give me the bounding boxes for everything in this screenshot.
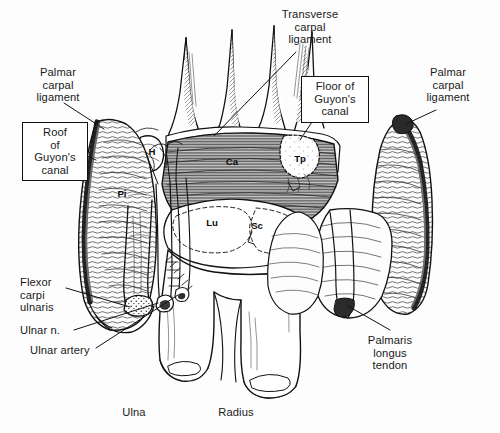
label-ulnar-nerve: Ulnar n. xyxy=(20,324,100,337)
bone-abbr-hamate: H xyxy=(140,146,164,157)
label-palmar-carpal-ligament-left: Palmar carpal ligament xyxy=(10,66,106,104)
label-floor-of-guyons-canal: Floor of Guyon's canal xyxy=(301,76,369,123)
label-ulna: Ulna xyxy=(108,406,160,419)
bone-abbr-lunate: Lu xyxy=(200,217,224,228)
bone-abbr-capitate: Ca xyxy=(220,156,244,167)
label-roof-of-guyons-canal: Roof of Guyon's canal xyxy=(22,122,88,181)
label-palmar-carpal-ligament-right: Palmar carpal ligament xyxy=(400,66,496,104)
bone-abbr-pisiform: Pi xyxy=(110,188,134,199)
bone-abbr-trapezium: Tp xyxy=(288,153,312,164)
bone-abbr-scaphoid: Sc xyxy=(245,220,269,231)
anatomical-figure: Palmar carpal ligament Roof of Guyon's c… xyxy=(0,0,500,433)
label-palmaris-longus-tendon: Palmaris longus tendon xyxy=(344,334,436,372)
label-ulnar-artery: Ulnar artery xyxy=(30,344,126,357)
label-flexor-carpi-ulnaris: Flexor carpi ulnaris xyxy=(20,276,100,314)
label-transverse-carpal-ligament: Transverse carpal ligament xyxy=(262,8,358,46)
label-radius: Radius xyxy=(208,406,264,419)
